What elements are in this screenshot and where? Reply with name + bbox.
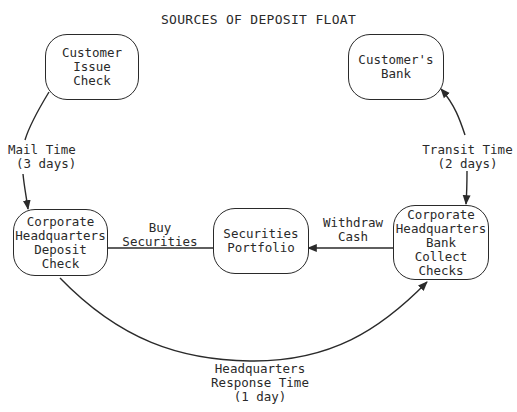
mail-time-arrow-lower [23, 174, 28, 209]
edge-label-line: Mail Time [8, 143, 78, 157]
edge-label-line: Headquarters [205, 362, 315, 376]
node-label: Portfolio [227, 241, 295, 255]
node-label: Bank [381, 67, 411, 81]
edge-label-mail-time: Mail Time (3 days) [8, 143, 78, 171]
edge-label-line: Buy [120, 221, 200, 235]
node-label: Headquarters [15, 229, 105, 243]
node-label: Checks [418, 264, 463, 278]
hq-response-time-arrow [60, 278, 427, 361]
mail-time-arrow-upper [25, 92, 49, 140]
node-label: Customer [62, 46, 122, 60]
node-label: Deposit [34, 243, 87, 257]
edge-label-line: Response Time [205, 376, 315, 390]
edge-label-line: Securities [120, 235, 200, 249]
node-label: Headquarters [396, 222, 486, 236]
node-corporate-hq-bank-collect-checks: Corporate Headquarters Bank Collect Chec… [393, 205, 489, 280]
edge-label-line: (3 days) [8, 157, 78, 171]
edge-label-line: (1 day) [205, 390, 315, 404]
edge-label-buy-securities: Buy Securities [120, 221, 200, 249]
node-customer-issue-check: Customer Issue Check [45, 34, 139, 100]
node-customers-bank: Customer's Bank [348, 34, 444, 100]
edge-label-withdraw-cash: Withdraw Cash [318, 216, 388, 244]
edge-label-line: Withdraw [318, 216, 388, 230]
node-label: Issue [73, 60, 111, 74]
edge-label-hq-response-time: Headquarters Response Time (1 day) [205, 362, 315, 404]
diagram-title: SOURCES OF DEPOSIT FLOAT [0, 12, 517, 27]
transit-time-arrow-upper [441, 89, 465, 135]
node-label: Check [42, 257, 80, 271]
node-corporate-hq-deposit-check: Corporate Headquarters Deposit Check [13, 209, 108, 276]
node-label: Corporate [407, 208, 475, 222]
edge-label-line: Cash [318, 230, 388, 244]
node-label: Collect [415, 250, 468, 264]
node-securities-portfolio: Securities Portfolio [213, 208, 309, 274]
node-label: Bank [426, 236, 456, 250]
node-label: Check [73, 74, 111, 88]
edge-label-line: Transit Time [420, 143, 515, 157]
node-label: Securities [223, 227, 298, 241]
edge-label-transit-time: Transit Time (2 days) [420, 143, 515, 171]
edge-label-line: (2 days) [420, 157, 515, 171]
node-label: Customer's [358, 53, 433, 67]
transit-time-arrow-lower [466, 171, 467, 204]
node-label: Corporate [27, 215, 95, 229]
